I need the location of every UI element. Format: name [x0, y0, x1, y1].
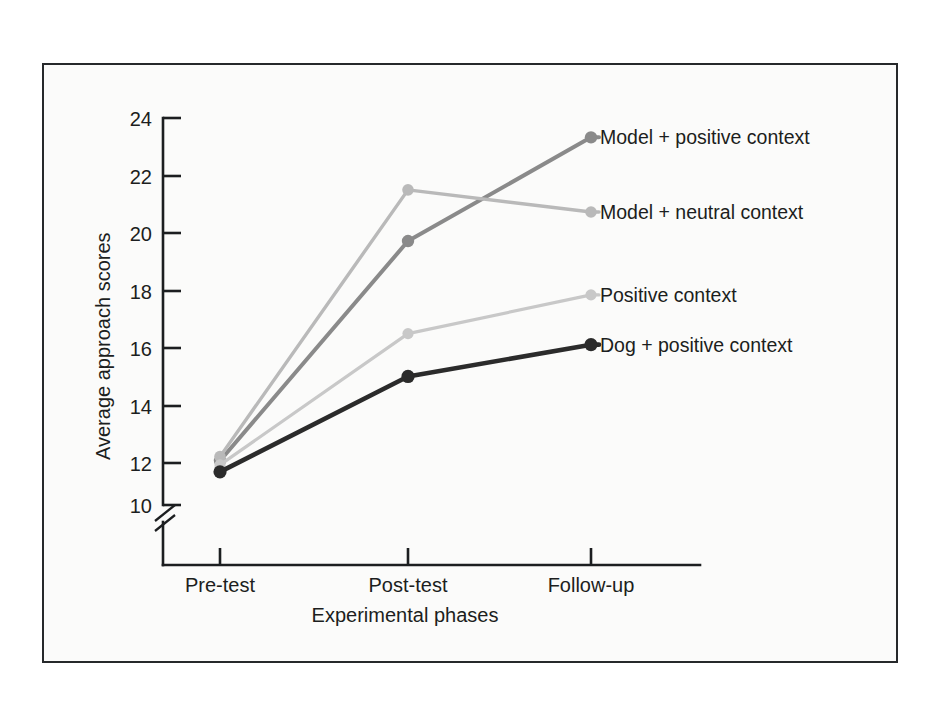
figure-page: 24 22 20 18 16 14 12 10 Average approach… — [0, 0, 942, 704]
figure-frame — [42, 63, 898, 663]
